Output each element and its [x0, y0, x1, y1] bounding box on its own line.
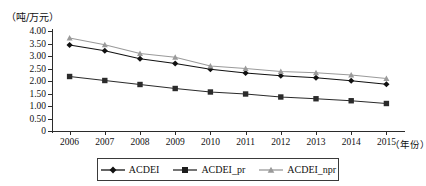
y-tick-label: 4.00: [29, 26, 46, 36]
y-tick-label: 0.50: [29, 114, 46, 124]
y-tick-label: 2.50: [29, 64, 46, 74]
x-tick-label: 2007: [95, 137, 114, 147]
x-tick-label: 2009: [166, 137, 185, 147]
square-point: [173, 86, 178, 91]
x-tick: [175, 131, 176, 135]
x-tick: [386, 131, 387, 135]
x-tick: [351, 131, 352, 135]
legend-item-acdei-npr[interactable]: ACDEI_npr: [258, 165, 336, 175]
chart-figure: （吨/万元） 4.003.503.002.502.001.501.000.500…: [0, 0, 426, 186]
legend-label-acdei-pr: ACDEI_pr: [201, 165, 245, 175]
x-tick-label: 2013: [307, 137, 326, 147]
x-tick: [70, 131, 71, 135]
diamond-point: [67, 42, 73, 48]
square-point: [137, 82, 142, 87]
legend-item-acdei[interactable]: ACDEI: [100, 165, 160, 175]
series-acdei: [67, 42, 390, 87]
legend-item-acdei-pr[interactable]: ACDEI_pr: [172, 165, 245, 175]
x-tick-label: 2012: [271, 137, 290, 147]
y-tick: [48, 131, 52, 132]
y-tick-label: 0: [41, 126, 46, 136]
x-tick: [246, 131, 247, 135]
diamond-point: [313, 75, 319, 81]
y-tick-label: 2.00: [29, 76, 46, 86]
x-tick-label: 2006: [60, 137, 79, 147]
x-tick-label: 2008: [131, 137, 150, 147]
square-point: [313, 96, 318, 101]
diamond-marker-icon: [100, 165, 126, 175]
x-tick: [281, 131, 282, 135]
legend-label-acdei-npr: ACDEI_npr: [287, 165, 336, 175]
x-tick: [210, 131, 211, 135]
square-point: [349, 98, 354, 103]
diamond-point: [172, 60, 178, 66]
square-marker-icon: [172, 165, 198, 175]
x-tick: [140, 131, 141, 135]
y-tick-label: 1.00: [29, 101, 46, 111]
square-point: [102, 78, 107, 83]
triangle-marker-icon: [258, 165, 284, 175]
x-axis-title: （年份）: [390, 137, 426, 151]
y-tick-label: 3.50: [29, 39, 46, 49]
square-point: [278, 94, 283, 99]
y-axis-unit-label: （吨/万元）: [6, 9, 59, 24]
series-acdei-npr: [67, 35, 390, 81]
diamond-point: [102, 48, 108, 54]
x-tick-label: 2014: [342, 137, 361, 147]
x-tick-label: 2010: [201, 137, 220, 147]
square-point: [243, 91, 248, 96]
square-point: [384, 101, 389, 106]
chart-legend: ACDEI ACDEI_pr ACDEI_npr: [97, 158, 339, 181]
x-tick-label: 2011: [236, 137, 255, 147]
series-acdei-pr: [67, 74, 389, 106]
plot-area: 4.003.503.002.502.001.501.000.500 200620…: [52, 31, 404, 131]
series-lines: [52, 31, 404, 131]
diamond-point: [137, 56, 143, 62]
y-tick-label: 3.00: [29, 51, 46, 61]
diamond-point: [348, 78, 354, 84]
diamond-point: [383, 81, 389, 87]
x-tick: [316, 131, 317, 135]
legend-label-acdei: ACDEI: [129, 165, 160, 175]
square-point: [208, 89, 213, 94]
y-tick-label: 1.50: [29, 89, 46, 99]
square-point: [67, 74, 72, 79]
x-tick: [105, 131, 106, 135]
